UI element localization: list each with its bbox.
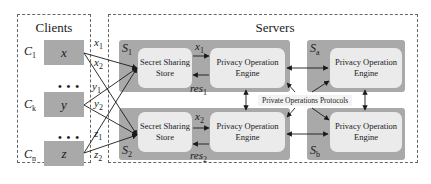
arrows-layer [0,0,431,184]
arrow-protocol-s2 [287,108,295,117]
arrow-protocol-s1 [287,83,295,92]
private-operations-protocols-label: Private Operations Protocols [258,95,352,106]
arrow-z1 [84,68,137,153]
arrow-z2 [84,135,137,153]
arrow-protocol-sb [312,108,329,120]
arrow-y1 [84,68,137,105]
arrow-y2 [84,105,137,135]
arrow-protocol-sa [312,81,329,92]
